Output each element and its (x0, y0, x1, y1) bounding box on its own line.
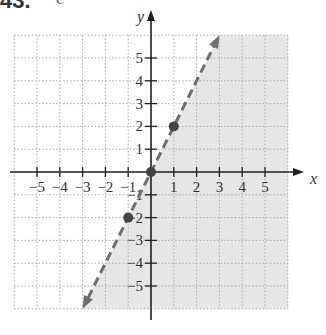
x-tick-label: 3 (216, 179, 224, 195)
x-tick-label: 4 (238, 179, 246, 195)
x-axis-arrow-icon (293, 168, 304, 176)
plotted-point (146, 167, 156, 177)
plotted-point (123, 213, 133, 223)
x-tick-label: 5 (261, 179, 269, 195)
y-axis-arrow-icon (147, 10, 155, 21)
x-tick-label: −4 (52, 179, 68, 195)
x-axis-label: x (309, 170, 317, 187)
y-tick-label: 3 (136, 96, 144, 112)
x-tick-label: 1 (170, 179, 178, 195)
y-tick-label: 4 (136, 73, 144, 89)
y-tick-label: 5 (136, 50, 144, 66)
x-tick-label: −5 (29, 179, 45, 195)
y-axis-label: y (135, 8, 145, 26)
y-tick-label: −4 (127, 255, 143, 271)
x-tick-label: −2 (97, 179, 113, 195)
boundary-arrow-top-icon (209, 35, 219, 49)
y-tick-label: −3 (127, 232, 143, 248)
x-tick-label: −3 (75, 179, 91, 195)
inequality-graph: xy−5−4−3−2−11234554321−1−2−3−4−5 (0, 0, 326, 335)
plotted-point (169, 121, 179, 131)
y-tick-label: 2 (136, 118, 144, 134)
y-tick-label: −5 (127, 278, 143, 294)
x-tick-label: 2 (193, 179, 201, 195)
y-tick-label: 1 (136, 141, 144, 157)
